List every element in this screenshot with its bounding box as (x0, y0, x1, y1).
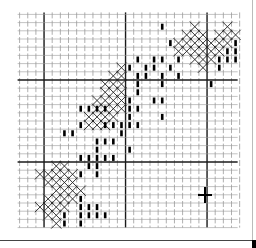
stitch-mark (120, 130, 123, 136)
stitch-mark (210, 81, 213, 87)
stitch-mark (104, 122, 107, 128)
stitch-mark (145, 73, 148, 79)
stitch-mark (226, 57, 229, 63)
stitch-mark (104, 155, 107, 161)
cross-stitch (173, 46, 183, 56)
stitch-mark (234, 40, 237, 46)
stitch-mark (136, 57, 139, 63)
cross-stitch (51, 218, 61, 228)
stitch-mark (128, 106, 131, 112)
stitch-mark (145, 65, 148, 71)
cross-stitch (84, 120, 94, 130)
stitch-mark (79, 196, 82, 202)
stitch-mark (153, 57, 156, 63)
stitch-mark (96, 155, 99, 161)
cross-stitch (92, 120, 102, 130)
stitch-mark (128, 122, 131, 128)
stitch-mark (161, 98, 164, 104)
stitch-mark (136, 89, 139, 95)
stitch-mark (71, 130, 74, 136)
stitch-mark (226, 48, 229, 54)
stitch-mark (234, 57, 237, 63)
stitch-mark (88, 204, 91, 210)
stitch-mark (136, 122, 139, 128)
stitch-mark (169, 40, 172, 46)
stitch-mark (128, 65, 131, 71)
stitch-mark (96, 106, 99, 112)
stitch-mark (234, 48, 237, 54)
center-plus-icon (198, 187, 212, 203)
stitch-mark (161, 81, 164, 87)
stitch-mark (112, 122, 115, 128)
stitch-mark (161, 73, 164, 79)
stitch-mark (161, 57, 164, 63)
stitch-mark (79, 106, 82, 112)
stitch-mark (63, 130, 66, 136)
stitch-mark (218, 57, 221, 63)
stitch-mark (128, 147, 131, 153)
stitch-mark (153, 65, 156, 71)
stitch-mark (96, 212, 99, 218)
stitch-mark (161, 24, 164, 30)
stitch-mark (79, 204, 82, 210)
stitch-mark (88, 212, 91, 218)
cross-stitch-chart (0, 0, 256, 248)
page-border-right (252, 0, 253, 248)
stitch-mark (112, 155, 115, 161)
stitch-mark (79, 155, 82, 161)
stitch-mark (96, 147, 99, 153)
stitch-mark (218, 65, 221, 71)
stitch-mark (63, 221, 66, 227)
page-border-bottom (0, 240, 252, 241)
stitch-mark (112, 139, 115, 145)
stitch-mark (79, 122, 82, 128)
stitch-mark (79, 221, 82, 227)
stitch-mark (161, 114, 164, 120)
stitch-mark (128, 114, 131, 120)
stitch-mark (79, 171, 82, 177)
stitch-mark (104, 106, 107, 112)
stitch-mark (177, 73, 180, 79)
stitch-mark (63, 212, 66, 218)
stitch-mark (136, 81, 139, 87)
stitch-mark (104, 212, 107, 218)
stitch-mark (177, 57, 180, 63)
corner-mark (252, 240, 256, 248)
stitch-mark (136, 106, 139, 112)
stitch-mark (88, 163, 91, 169)
stitch-mark (120, 122, 123, 128)
stitch-mark (96, 204, 99, 210)
stitch-mark (96, 171, 99, 177)
stitch-mark (96, 163, 99, 169)
stitch-mark (96, 139, 99, 145)
cross-stitch (51, 210, 61, 220)
stitch-mark (136, 73, 139, 79)
stitch-mark (128, 98, 131, 104)
stitch-mark (104, 139, 107, 145)
stitch-mark (88, 155, 91, 161)
stitch-mark (88, 106, 91, 112)
stitch-mark (169, 65, 172, 71)
stitch-mark (153, 98, 156, 104)
stitch-mark (79, 212, 82, 218)
